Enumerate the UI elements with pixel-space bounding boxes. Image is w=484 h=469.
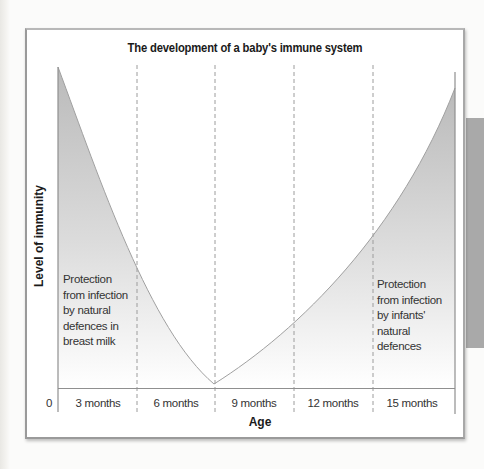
x-tick-6-months: 6 months	[137, 397, 215, 409]
x-tick-9-months: 9 months	[215, 397, 293, 409]
x-tick-12-months: 12 months	[294, 397, 372, 409]
annotation-line: by infants'	[377, 308, 442, 324]
annotation-line: by natural	[63, 303, 128, 319]
annotation-line: natural	[377, 324, 442, 340]
annotation-line: defences in	[63, 319, 128, 335]
annotation-line: from infection	[63, 288, 128, 304]
annotation-line: Protection	[377, 277, 442, 293]
annotation-breast-milk: Protection from infection by natural def…	[63, 272, 128, 350]
annotation-infant-defences: Protection from infection by infants' na…	[377, 277, 442, 355]
x-axis-label: Age	[235, 415, 285, 429]
x-tick-15-months: 15 months	[373, 397, 451, 409]
annotation-line: Protection	[63, 272, 128, 288]
y-axis-label: Level of immunity	[32, 181, 48, 291]
annotation-line: from infection	[377, 293, 442, 309]
annotation-line: defences	[377, 339, 442, 355]
y-origin-label: 0	[46, 397, 52, 409]
x-tick-3-months: 3 months	[59, 397, 137, 409]
annotation-line: breast milk	[63, 334, 128, 350]
